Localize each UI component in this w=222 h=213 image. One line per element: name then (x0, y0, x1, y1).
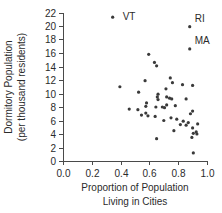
data-point (170, 97, 173, 100)
data-point (190, 136, 193, 139)
data-points (111, 16, 199, 155)
data-point (144, 105, 147, 108)
data-point (169, 116, 172, 119)
data-point (174, 104, 177, 107)
y-tick-label: 16 (45, 48, 57, 59)
data-point (154, 115, 157, 118)
data-point (162, 119, 165, 122)
data-point (111, 16, 114, 19)
y-tick-label: 20 (45, 21, 57, 32)
data-point (144, 111, 147, 114)
y-tick-label: 4 (50, 129, 56, 140)
x-tick-label: 0.6 (143, 168, 157, 179)
data-point (163, 106, 166, 109)
y-tick-label: 10 (45, 89, 57, 100)
data-point (192, 132, 195, 135)
data-point (195, 132, 198, 135)
data-point (154, 105, 157, 108)
data-point (172, 129, 175, 132)
data-point (192, 151, 195, 154)
y-axis-label-line2: (per thousand residents) (16, 33, 27, 141)
y-tick-label: 0 (50, 156, 56, 167)
data-point (153, 61, 156, 64)
x-tick-label: 1.0 (201, 168, 215, 179)
x-tick-label: 0.8 (172, 168, 186, 179)
data-point (140, 114, 143, 117)
x-axis-label-line1: Proportion of Population (81, 182, 188, 193)
data-point (156, 93, 159, 96)
data-point (188, 47, 191, 50)
data-point (182, 120, 185, 123)
data-point (136, 108, 139, 111)
data-point (145, 101, 148, 104)
data-point (185, 97, 188, 100)
y-axis-label-line1: Dormitory Population (3, 40, 14, 133)
data-point (137, 91, 140, 94)
x-tick-label: 0.4 (115, 168, 129, 179)
y-tick-label: 6 (50, 116, 56, 127)
data-point (169, 76, 172, 79)
chart-canvas: 0246810121416182022 0.00.20.40.60.81.0 V… (0, 0, 222, 213)
y-tick-label: 12 (45, 75, 57, 86)
data-point (156, 98, 159, 101)
data-point (165, 95, 168, 98)
data-point (191, 126, 194, 129)
scatter-plot-figure: 0246810121416182022 0.00.20.40.60.81.0 V… (0, 0, 222, 213)
data-point (155, 137, 158, 140)
data-point (118, 85, 121, 88)
y-tick-label: 8 (50, 102, 56, 113)
data-point (156, 95, 159, 98)
data-point (171, 81, 174, 84)
point-label-ri: RI (195, 13, 205, 24)
data-point (128, 107, 131, 110)
data-point (164, 87, 167, 90)
y-tick-label: 2 (50, 143, 56, 154)
data-point (147, 53, 150, 56)
data-point (191, 109, 194, 112)
data-point (188, 25, 191, 28)
data-point (196, 122, 199, 125)
x-tick-label: 0.2 (86, 168, 100, 179)
x-tick-label: 0.0 (57, 168, 71, 179)
point-label-vt: VT (123, 11, 136, 22)
data-point (179, 123, 182, 126)
y-tick-label: 22 (45, 8, 57, 19)
y-axis-ticks: 0246810121416182022 (45, 8, 63, 167)
data-point (181, 83, 184, 86)
data-point (146, 114, 149, 117)
point-annotations: VTRIMA (123, 11, 210, 46)
x-axis-label-line2: Living in Cities (103, 196, 167, 207)
y-tick-label: 14 (45, 62, 57, 73)
data-point (165, 103, 168, 106)
y-tick-label: 18 (45, 34, 57, 45)
data-point (175, 118, 178, 121)
point-label-ma: MA (195, 35, 210, 46)
data-point (187, 121, 190, 124)
data-point (155, 64, 158, 67)
data-point (189, 112, 192, 115)
data-point (191, 84, 194, 87)
data-point (143, 79, 146, 82)
x-axis-ticks: 0.00.20.40.60.81.0 (57, 161, 215, 179)
data-point (185, 124, 188, 127)
